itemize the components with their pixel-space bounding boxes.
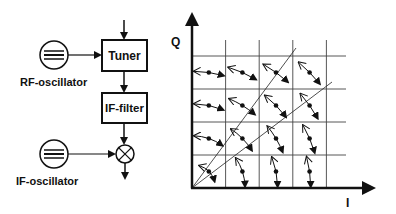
q-axis-label: Q [171,35,180,49]
constellation-point [207,136,212,141]
diagram-canvas: Tuner RF-oscillator IF-filter IF-oscilla… [0,0,396,214]
constellation-point [307,136,312,141]
constellation-point [307,70,312,75]
phase-rays [192,48,332,188]
constellation-point [240,103,245,108]
constellation-marks [194,62,320,187]
constellation-point [240,70,245,75]
if-oscillator-label: IF-oscillator [16,175,79,187]
phase-ray [192,48,296,188]
constellation-point [240,169,245,174]
i-axis-label: I [346,196,349,210]
constellation-point [207,70,212,75]
constellation-point [307,103,312,108]
constellation-point [207,169,212,174]
mixer-icon [116,145,134,163]
tuner-label: Tuner [108,49,141,63]
rf-oscillator-icon [40,41,68,69]
if-oscillator-icon [40,140,68,168]
constellation-point [274,136,279,141]
constellation-point [207,103,212,108]
constellation-point [274,169,279,174]
if-filter-label: IF-filter [105,102,144,114]
constellation-point [274,70,279,75]
block-diagram: Tuner RF-oscillator IF-filter IF-oscilla… [16,20,147,187]
rf-oscillator-label: RF-oscillator [20,76,88,88]
constellation-point [274,103,279,108]
constellation-point [307,169,312,174]
iq-plot: Q I [171,22,366,210]
iq-grid [192,40,346,188]
constellation-point [240,136,245,141]
